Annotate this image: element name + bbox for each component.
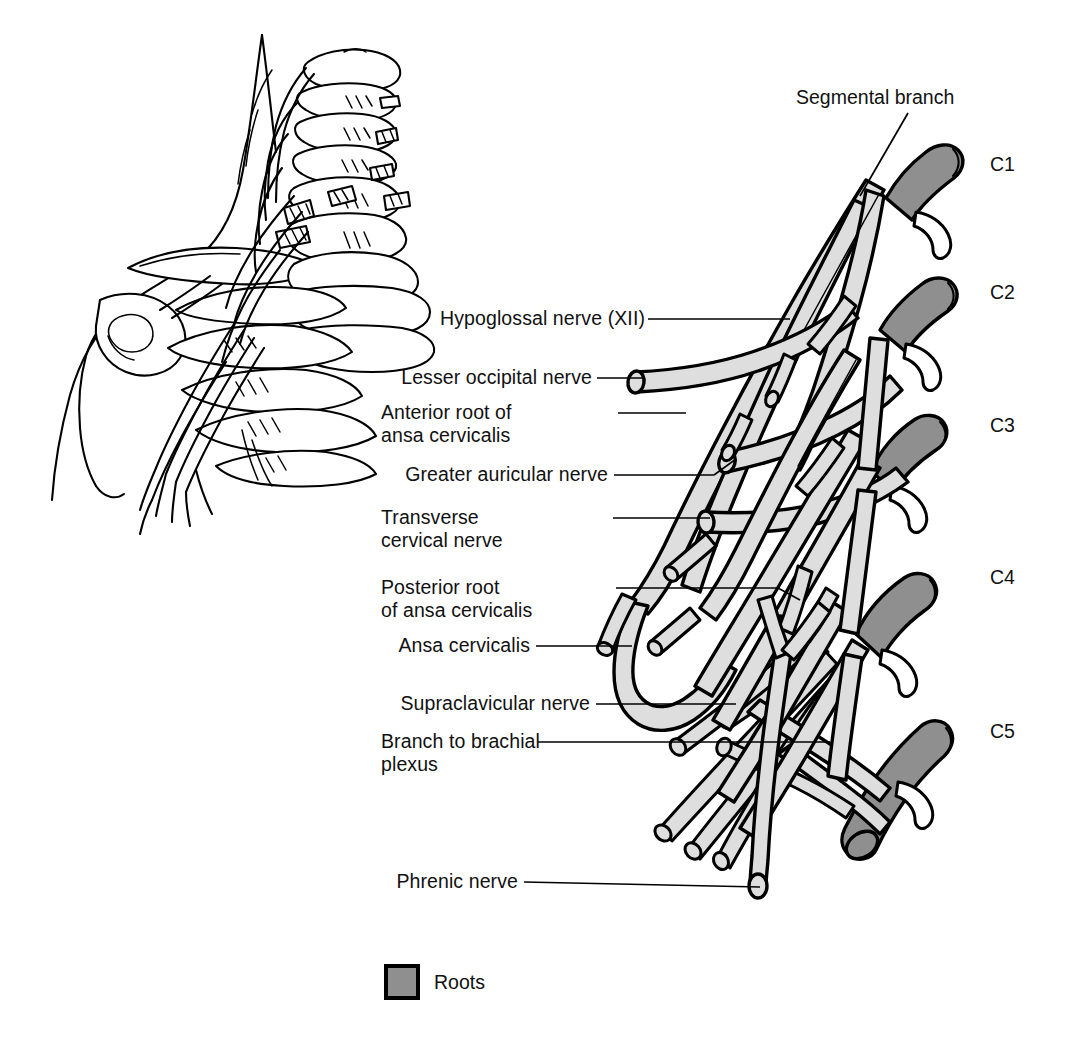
leader-phrenic xyxy=(524,882,760,887)
label-phrenic-nerve: Phrenic nerve xyxy=(340,870,518,893)
plexus-diagram xyxy=(595,145,963,898)
root-c1 xyxy=(886,145,963,220)
label-posterior-root-ansa-line2: of ansa cervicalis xyxy=(381,599,532,622)
figure-canvas: .rt { fill:#8f8f8f; stroke:#000; stroke-… xyxy=(0,0,1066,1047)
legend: Roots xyxy=(384,964,485,1000)
cervical-vertebrae xyxy=(287,49,418,306)
root-c4 xyxy=(856,573,937,658)
label-ansa-cervicalis: Ansa cervicalis xyxy=(340,634,530,657)
label-segmental-branch: Segmental branch xyxy=(796,86,954,109)
nerve-branches xyxy=(595,180,908,898)
label-transverse-cervical-line1: Transverse xyxy=(381,506,479,529)
label-hypoglossal-nerve: Hypoglossal nerve (XII) xyxy=(340,307,645,330)
label-branch-brachial-line2: plexus xyxy=(381,753,438,776)
label-branch-brachial-line1: Branch to brachial xyxy=(381,730,540,753)
root-c2 xyxy=(880,278,957,352)
cervical-plexus-illustration: .rt { fill:#8f8f8f; stroke:#000; stroke-… xyxy=(0,0,1066,1047)
label-anterior-root-ansa-line1: Anterior root of xyxy=(381,401,512,424)
orientation-inset xyxy=(52,35,434,534)
label-supraclavicular-nerve: Supraclavicular nerve xyxy=(340,692,590,715)
legend-swatch-roots xyxy=(384,964,420,1000)
label-transverse-cervical-line2: cervical nerve xyxy=(381,529,503,552)
label-level-c5: C5 xyxy=(990,720,1015,743)
label-anterior-root-ansa-line2: ansa cervicalis xyxy=(381,424,510,447)
label-level-c3: C3 xyxy=(990,414,1015,437)
label-greater-auricular-nerve: Greater auricular nerve xyxy=(340,463,608,486)
label-level-c4: C4 xyxy=(990,566,1015,589)
label-level-c2: C2 xyxy=(990,281,1015,304)
legend-label-roots: Roots xyxy=(434,971,485,994)
label-level-c1: C1 xyxy=(990,153,1015,176)
label-lesser-occipital-nerve: Lesser occipital nerve xyxy=(340,366,592,389)
label-posterior-root-ansa-line1: Posterior root xyxy=(381,576,499,599)
